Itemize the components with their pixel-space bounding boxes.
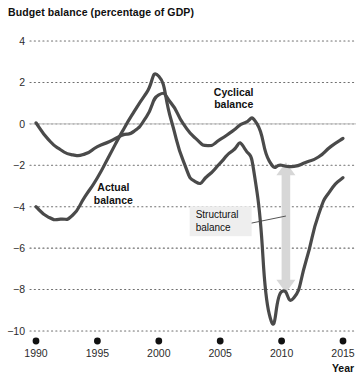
- x-tick-marker: [217, 338, 224, 345]
- chart-canvas: Structuralbalance 420−2−4−6−8−10 1990199…: [0, 0, 362, 383]
- x-axis-ticks: 199019952000200520102015: [24, 338, 355, 359]
- structural-gap-arrow-shape: [276, 162, 295, 292]
- x-tick-label: 1990: [24, 347, 48, 359]
- x-tick-label: 2010: [270, 347, 294, 359]
- series-label: Actualbalance: [94, 181, 133, 206]
- series-line: [36, 74, 343, 324]
- x-tick-label: 2005: [209, 347, 233, 359]
- x-tick-marker: [155, 338, 162, 345]
- structural-balance-callout: Structuralbalance: [190, 206, 252, 236]
- x-tick-marker: [278, 338, 285, 345]
- y-tick-label: −4: [13, 201, 25, 213]
- series-line: [36, 93, 343, 167]
- series-lines-group: [36, 74, 343, 324]
- gridlines-group: [30, 41, 356, 331]
- y-tick-label: −10: [7, 325, 25, 337]
- x-tick-label: 2000: [147, 347, 171, 359]
- y-tick-label: −2: [13, 159, 25, 171]
- series-labels-group: CyclicalbalanceActualbalance: [94, 86, 254, 206]
- x-tick-marker: [33, 338, 40, 345]
- series-label: Cyclicalbalance: [214, 86, 254, 111]
- x-tick-label: 2015: [331, 347, 355, 359]
- x-axis-title: Year: [332, 362, 354, 374]
- x-tick-marker: [94, 338, 101, 345]
- y-tick-label: −8: [13, 283, 25, 295]
- y-tick-label: 0: [19, 118, 25, 130]
- y-tick-label: 4: [19, 35, 25, 47]
- x-tick-label: 1995: [86, 347, 110, 359]
- structural-gap-arrow: [276, 162, 295, 292]
- y-tick-label: 2: [19, 76, 25, 88]
- y-axis-ticks: 420−2−4−6−8−10: [7, 35, 25, 337]
- x-tick-marker: [340, 338, 347, 345]
- budget-balance-chart: Budget balance (percentage of GDP) Struc…: [0, 0, 362, 383]
- y-tick-label: −6: [13, 242, 25, 254]
